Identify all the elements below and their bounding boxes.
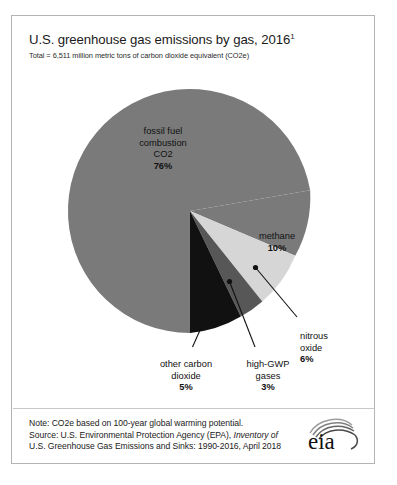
- eia-logo: eia: [304, 413, 366, 455]
- footer-source-prefix: Source: U.S. Environmental Protection Ag…: [29, 430, 234, 440]
- chart-figure: U.S. greenhouse gas emissions by gas, 20…: [11, 15, 375, 464]
- pie-label-line-3: CO2: [153, 149, 172, 159]
- pie-chart-svg: [12, 16, 376, 465]
- footer-divider: [13, 408, 375, 409]
- pie-label-methane: methane 10%: [234, 231, 320, 254]
- pie-chart-plot: fossil fuel combustion CO2 76% methane 1…: [12, 16, 376, 465]
- pie-label-percent: 5%: [179, 382, 192, 392]
- pie-label-percent: 3%: [261, 382, 274, 392]
- footer-source-line-1: Source: U.S. Environmental Protection Ag…: [29, 430, 299, 442]
- pie-label-line-1: other carbon: [160, 359, 212, 369]
- pie-label-line-1: fossil fuel: [144, 126, 183, 136]
- pie-label-line-2: oxide: [300, 343, 322, 353]
- footer-source-line-2: U.S. Greenhouse Gas Emissions and Sinks:…: [29, 441, 299, 453]
- pie-label-fossil-fuel-combustion-co2: fossil fuel combustion CO2 76%: [108, 126, 218, 172]
- pie-label-nitrous-oxide: nitrous oxide 6%: [300, 331, 366, 366]
- pie-label-line-1: nitrous: [300, 331, 328, 341]
- pie-label-line-2: dioxide: [171, 371, 200, 381]
- pie-label-high-gwp-gases: high-GWP gases 3%: [231, 359, 305, 394]
- pie-label-line-2: combustion: [139, 138, 187, 148]
- pie-label-other-carbon-dioxide: other carbon dioxide 5%: [138, 359, 234, 394]
- pie-label-line-1: methane: [259, 231, 295, 241]
- pie-label-percent: 76%: [154, 161, 173, 171]
- chart-footer: Note: CO2e based on 100-year global warm…: [29, 418, 299, 453]
- pie-label-line-2: gases: [256, 371, 281, 381]
- footer-note: Note: CO2e based on 100-year global warm…: [29, 418, 299, 430]
- pie-label-percent: 10%: [268, 243, 287, 253]
- footer-source-title-part-1: Inventory of: [234, 430, 278, 440]
- eia-logo-text: eia: [308, 429, 335, 454]
- pie-label-line-1: high-GWP: [247, 359, 290, 369]
